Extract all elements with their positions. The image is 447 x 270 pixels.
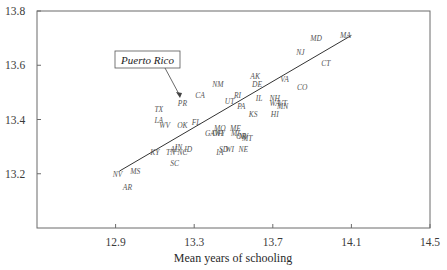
point-label-ok: OK [177, 121, 188, 130]
point-label-wy: WY [215, 129, 226, 138]
x-tick-label: 12.9 [106, 236, 126, 248]
x-tick-label: 14.1 [341, 236, 361, 248]
point-label-va: VA [280, 75, 289, 84]
point-label-ca: CA [195, 91, 205, 100]
y-axis: 13.213.413.613.8 [5, 5, 41, 180]
callout-label: Puerto Rico [120, 54, 174, 66]
point-label-ar: AR [122, 183, 133, 192]
point-label-tn: TN [166, 148, 176, 157]
y-tick-label: 13.4 [5, 114, 25, 126]
point-label-md: MD [309, 34, 322, 43]
x-axis-title: Mean years of schooling [174, 251, 292, 265]
point-label-co: CO [297, 83, 308, 92]
point-label-nv: NV [112, 170, 124, 179]
point-label-tx: TX [154, 105, 163, 114]
point-label-ut: UT [225, 97, 235, 106]
point-label-nc: NC [176, 148, 188, 157]
x-tick-label: 13.7 [263, 236, 283, 248]
point-label-ky: KY [149, 148, 160, 157]
point-label-ct: CT [321, 59, 331, 68]
point-label-hi: HI [270, 110, 279, 119]
point-label-pa: PA [236, 102, 246, 111]
point-label-il: IL [255, 94, 263, 103]
point-label-de: DE [251, 80, 262, 89]
point-label-mt: MT [241, 134, 253, 143]
x-tick-label: 14.5 [420, 236, 440, 248]
y-tick-label: 13.8 [5, 5, 25, 17]
point-label-wi: WI [225, 145, 234, 154]
point-label-wv: WV [159, 121, 171, 130]
point-label-fl: FL [191, 118, 201, 127]
point-label-nm: NM [211, 80, 224, 89]
point-label-nj: NJ [295, 48, 305, 57]
plot-frame [37, 11, 430, 228]
point-label-sc: SC [170, 159, 180, 168]
x-tick-label: 13.3 [184, 236, 204, 248]
point-label-ks: KS [248, 110, 258, 119]
point-label-ne: NE [238, 145, 249, 154]
point-label-ia: IA [215, 148, 223, 157]
point-label-pr: PR [177, 99, 188, 108]
point-label-ms: MS [129, 167, 140, 176]
arrow-head-icon [176, 92, 182, 98]
y-tick-label: 13.6 [5, 59, 25, 71]
point-label-ma: MA [339, 31, 351, 40]
puerto-rico-callout: Puerto Rico [115, 51, 182, 98]
scatter-chart: 12.913.313.714.114.5 13.213.413.613.8 Me… [0, 0, 447, 270]
y-tick-label: 13.2 [5, 168, 25, 180]
